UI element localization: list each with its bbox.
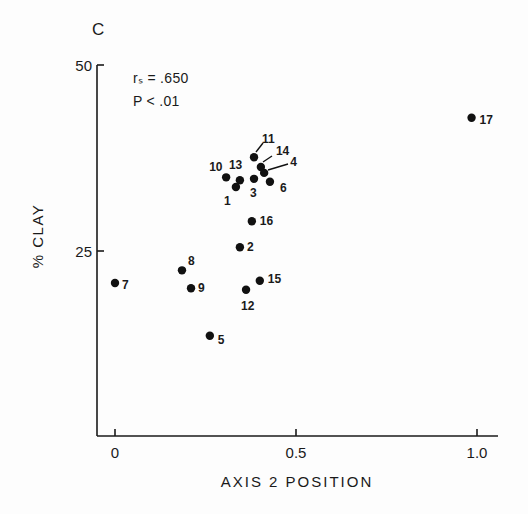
data-point-2	[236, 243, 244, 251]
data-point-11	[250, 153, 258, 161]
x-tick-label: 0	[111, 444, 119, 461]
y-tick-label: 25	[75, 243, 92, 260]
data-points: 1234567891011121314151617	[111, 113, 493, 347]
data-point-14	[257, 163, 265, 171]
leader-line	[263, 156, 272, 162]
y-tick-label: 50	[75, 57, 92, 74]
point-label-1: 1	[224, 194, 231, 208]
data-point-15	[256, 277, 264, 285]
data-point-17	[467, 114, 475, 122]
ticks: 00.51.02550	[75, 57, 487, 461]
data-point-6	[266, 178, 274, 186]
data-point-13	[236, 176, 244, 184]
leader-line	[268, 164, 288, 170]
point-label-12: 12	[241, 299, 255, 313]
point-label-3: 3	[250, 186, 257, 200]
data-point-3	[250, 175, 258, 183]
point-label-6: 6	[280, 181, 287, 195]
data-point-16	[248, 217, 256, 225]
point-label-15: 15	[268, 272, 282, 286]
point-label-2: 2	[247, 240, 254, 254]
x-tick-label: 1.0	[467, 444, 488, 461]
axes	[97, 65, 498, 436]
point-label-16: 16	[260, 214, 274, 228]
point-label-14: 14	[276, 144, 290, 158]
data-point-7	[111, 279, 119, 287]
point-label-13: 13	[229, 158, 243, 172]
point-label-7: 7	[122, 278, 129, 292]
scatter-plot: 00.51.02550 1234567891011121314151617	[0, 0, 528, 514]
point-label-4: 4	[290, 155, 297, 169]
point-label-5: 5	[218, 333, 225, 347]
data-point-8	[178, 266, 186, 274]
data-point-12	[242, 285, 250, 293]
data-point-9	[187, 284, 195, 292]
point-label-9: 9	[198, 281, 205, 295]
x-tick-label: 0.5	[286, 444, 307, 461]
point-label-8: 8	[188, 254, 195, 268]
data-point-5	[206, 332, 214, 340]
point-label-10: 10	[209, 160, 223, 174]
point-label-17: 17	[480, 113, 494, 127]
point-label-11: 11	[262, 132, 275, 146]
data-point-10	[222, 173, 230, 181]
